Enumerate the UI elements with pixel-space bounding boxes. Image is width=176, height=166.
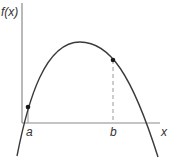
curve-f bbox=[17, 42, 158, 157]
point-b-label: b bbox=[110, 125, 117, 139]
point-a-label: a bbox=[26, 125, 33, 139]
y-axis-label: f(x) bbox=[1, 5, 18, 19]
point-b bbox=[111, 58, 116, 63]
function-diagram: f(x) a b x bbox=[0, 0, 176, 166]
x-axis-label: x bbox=[160, 125, 168, 139]
point-a bbox=[26, 105, 31, 110]
